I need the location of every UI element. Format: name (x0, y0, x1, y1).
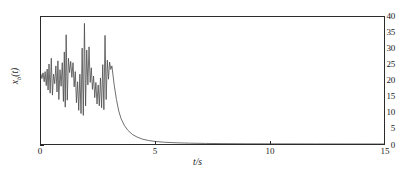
plot-area (40, 16, 385, 145)
y-axis-label-wrapper: xb(t) (0, 62, 34, 92)
x-axis-label: t/s (0, 157, 395, 167)
x-tick-mark (155, 141, 156, 145)
x-tick-label: 10 (258, 147, 282, 156)
x-tick-mark (270, 141, 271, 145)
y-axis-label-argument: (t) (10, 68, 20, 77)
x-tick-label: 15 (373, 147, 397, 156)
x-tick-label: 0 (28, 147, 52, 156)
y-axis-label-base: x (10, 80, 20, 84)
data-series-svg (41, 17, 384, 144)
x-axis-label-text: t/s (193, 157, 202, 167)
y-axis-label-subscript: b (15, 77, 22, 80)
series-line-x-b (41, 23, 384, 144)
y-axis-label: xb(t) (10, 50, 22, 102)
x-tick-label: 5 (143, 147, 167, 156)
